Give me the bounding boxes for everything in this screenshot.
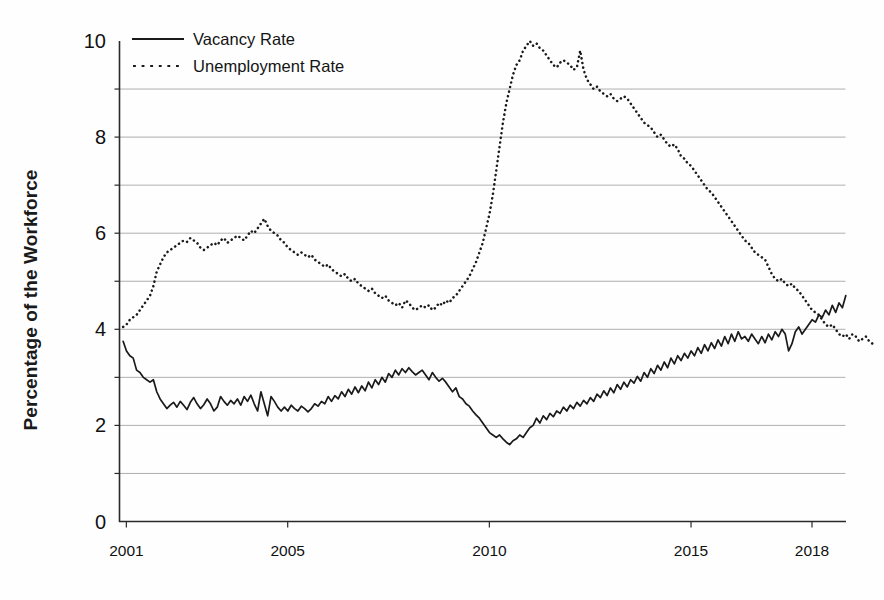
- chart-legend: Vacancy Rate Unemployment Rate: [132, 28, 344, 77]
- data-series: [123, 41, 873, 445]
- x-axis-ticks: [126, 522, 812, 528]
- x-axis-tick-label: 2001: [109, 542, 143, 560]
- legend-label-unemployment-rate: Unemployment Rate: [193, 57, 344, 76]
- x-axis-tick-labels: 20012005201020152018: [0, 542, 884, 570]
- legend-item-vacancy-rate: Vacancy Rate: [132, 28, 344, 50]
- x-axis-tick-label: 2015: [674, 542, 708, 560]
- x-axis-tick-label: 2010: [472, 542, 506, 560]
- legend-swatch-dotted-line-icon: [132, 60, 184, 72]
- legend-swatch-solid-line-icon: [132, 33, 184, 45]
- x-axis-tick-label: 2018: [795, 542, 829, 560]
- plot-area: [0, 0, 884, 600]
- legend-item-unemployment-rate: Unemployment Rate: [132, 55, 344, 77]
- legend-label-vacancy-rate: Vacancy Rate: [193, 30, 295, 49]
- series-line-vacancy-rate: [123, 296, 846, 445]
- gridlines: [115, 89, 846, 473]
- chart-figure: Percentage of the Workforce 0246810 Vaca…: [0, 0, 884, 600]
- x-axis-tick-label: 2005: [270, 542, 304, 560]
- series-line-unemployment-rate: [123, 41, 873, 344]
